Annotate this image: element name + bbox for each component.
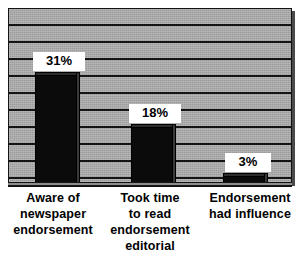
category-label-3: Endorsement had influence <box>196 190 304 222</box>
bar-chart: 31% 18% 3% Aware of newspaper endorsemen… <box>0 0 304 260</box>
gridline <box>9 41 291 43</box>
category-label-1-line-2: newspaper <box>0 206 106 222</box>
bar <box>223 176 268 183</box>
category-label-2-line-1: Took time <box>100 190 200 206</box>
category-label-1: Aware of newspaper endorsement <box>0 190 106 238</box>
bar-side-face <box>172 124 176 183</box>
bar-side-face <box>76 72 80 183</box>
category-label-2: Took time to read endorsement editorial <box>100 190 200 254</box>
category-label-3-line-2: had influence <box>196 206 304 222</box>
value-label-bar-3: 3% <box>225 153 271 172</box>
category-label-2-line-4: editorial <box>100 238 200 254</box>
category-label-2-line-2: to read <box>100 206 200 222</box>
value-label-bar-2: 18% <box>129 104 181 123</box>
bar <box>131 127 176 183</box>
category-label-1-line-1: Aware of <box>0 190 106 206</box>
value-label-bar-1: 31% <box>33 52 85 71</box>
bar <box>35 75 80 183</box>
category-label-2-line-3: endorsement <box>100 222 200 238</box>
gridline <box>9 24 291 26</box>
category-label-3-line-1: Endorsement <box>196 190 304 206</box>
category-label-1-line-3: endorsement <box>0 222 106 238</box>
bar-side-face <box>264 173 268 183</box>
plot-floor <box>8 183 292 187</box>
